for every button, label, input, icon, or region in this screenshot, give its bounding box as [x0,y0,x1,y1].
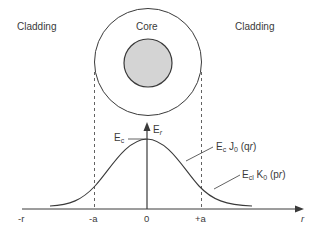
fiber-mode-diagram: Cladding Core Cladding Er Ec Ec J0 (qr) … [0,0,314,233]
core-label: Core [136,22,158,32]
cladding-field-label: Ecl K0 (pr) [242,170,285,181]
peak-label: Ec [114,133,124,144]
core-field-leader [186,147,213,161]
tick-zero: 0 [144,214,149,224]
tick-minus-a: -a [89,214,97,224]
left-cladding-label: Cladding [17,22,56,32]
y-axis-arrow-icon [144,122,151,131]
tick-plus-a: +a [195,214,206,224]
x-axis-arrow-icon [295,206,304,213]
x-axis-label: r [301,214,304,224]
core-field-label: Ec J0 (qr) [216,142,256,153]
clad-field-leader [214,175,240,189]
core-circle [124,39,172,87]
diagram-graphics [0,0,314,233]
tick-minus-r: -r [18,214,24,224]
right-cladding-label: Cladding [235,22,274,32]
y-axis-label: Er [153,125,162,136]
